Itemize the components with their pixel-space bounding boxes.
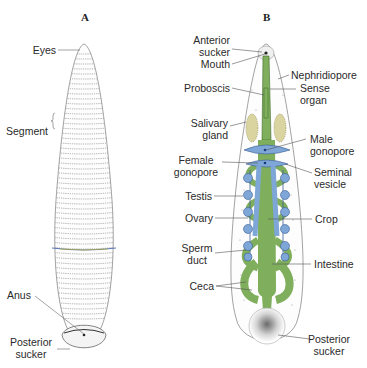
label-sense-organ-line2: organ (300, 94, 330, 106)
label-salivary-gland-line1: Salivary (180, 117, 228, 129)
label-mouth: Mouth (180, 58, 230, 70)
label-anterior-sucker-line2: sucker (180, 46, 230, 58)
leech-external-body (50, 44, 118, 348)
label-proboscis: Proboscis (170, 82, 230, 94)
label-seminal-vesicle: Seminal vesicle (314, 166, 352, 190)
label-female-gonopore: Female gonopore (170, 154, 222, 178)
label-testis: Testis (170, 190, 212, 202)
label-posterior-sucker-a: Posterior sucker (6, 336, 56, 360)
label-posterior-sucker-b: Posterior sucker (303, 333, 355, 357)
label-seminal-vesicle-line1: Seminal (314, 166, 352, 178)
label-sperm-duct-line2: duct (180, 254, 214, 266)
label-female-gonopore-line2: gonopore (170, 166, 222, 178)
label-sense-organ-line1: Sense (300, 82, 330, 94)
label-nephridiopore: Nephridiopore (291, 69, 357, 81)
label-anterior-sucker: Anterior sucker (180, 34, 230, 58)
label-sperm-duct-line1: Sperm (180, 242, 214, 254)
label-posterior-sucker-b-line1: Posterior (303, 333, 355, 345)
label-intestine: Intestine (314, 258, 354, 270)
label-seminal-vesicle-line2: vesicle (314, 178, 352, 190)
label-male-gonopore: Male gonopore (310, 133, 354, 157)
label-posterior-sucker-a-line2: sucker (6, 348, 56, 360)
label-anus: Anus (7, 289, 31, 301)
panel-b-letter: B (263, 11, 270, 23)
label-ovary: Ovary (170, 212, 213, 224)
label-ceca: Ceca (180, 280, 214, 292)
label-sense-organ: Sense organ (300, 82, 330, 106)
label-anterior-sucker-line1: Anterior (180, 34, 230, 46)
label-eyes: Eyes (28, 44, 56, 56)
label-male-gonopore-line1: Male (310, 133, 354, 145)
label-posterior-sucker-a-line1: Posterior (6, 336, 56, 348)
panel-a-letter: A (81, 11, 89, 23)
label-sperm-duct: Sperm duct (180, 242, 214, 266)
label-female-gonopore-line1: Female (170, 154, 222, 166)
label-male-gonopore-line2: gonopore (310, 145, 354, 157)
label-posterior-sucker-b-line2: sucker (303, 345, 355, 357)
label-crop: Crop (315, 213, 338, 225)
label-salivary-gland: Salivary gland (180, 117, 228, 141)
label-salivary-gland-line2: gland (180, 129, 228, 141)
label-segment: Segment (6, 125, 48, 137)
